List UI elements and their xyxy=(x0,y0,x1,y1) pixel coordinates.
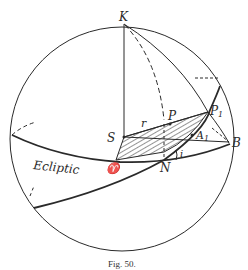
diagram-canvas: K S r P P1 A1 B N ♈ i Ecliptic Fig. 50. xyxy=(0,0,248,270)
label-p1: P1 xyxy=(209,104,223,119)
label-k: K xyxy=(118,10,129,24)
label-a1-sub: 1 xyxy=(204,134,209,143)
figure-caption: Fig. 50. xyxy=(108,259,136,269)
celestial-sphere-figure: K S r P P1 A1 B N ♈ i Ecliptic Fig. 50. xyxy=(0,0,248,270)
label-ecliptic: Ecliptic xyxy=(32,158,81,177)
meridian-k-p-dashed xyxy=(125,25,164,120)
point-a1 xyxy=(191,134,194,137)
ecliptic-back-dashed xyxy=(12,122,36,135)
label-a1: A1 xyxy=(195,129,209,143)
label-a1-main: A xyxy=(195,129,204,142)
label-r: r xyxy=(141,117,147,130)
dashed-p1-b xyxy=(212,128,229,142)
label-n: N xyxy=(159,161,171,175)
label-vernal-equinox: ♈ xyxy=(106,162,122,175)
point-s xyxy=(123,136,126,139)
label-i: i xyxy=(180,148,183,159)
hatched-orbit-sector xyxy=(116,112,208,160)
orbit-back-dashed-left xyxy=(30,186,34,196)
label-p: P xyxy=(167,109,177,123)
label-s: S xyxy=(107,131,115,145)
label-b: B xyxy=(231,136,241,150)
inclination-arc xyxy=(176,150,177,160)
label-p1-sub: 1 xyxy=(218,110,223,119)
